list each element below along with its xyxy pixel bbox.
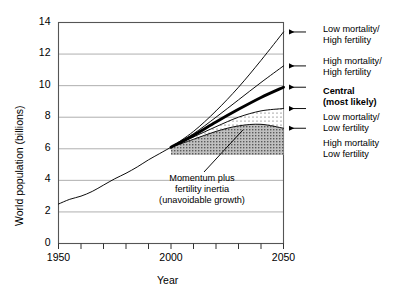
legend-entry-line: (most likely) [323, 97, 377, 108]
annotation-line: fertility inertia [143, 184, 261, 195]
x-tick-label: 2000 [149, 252, 193, 264]
legend-entry-high-mort-high-fert: High mortality/High fertility [323, 56, 382, 78]
legend-entry-low-mort-high-fert: Low mortality/High fertility [323, 24, 380, 46]
legend-entry-low-mort-low-fert: Low mortality/Low fertility [323, 112, 380, 134]
y-tick-label: 6 [29, 142, 51, 154]
legend-entry-line: Low mortality/ [323, 24, 380, 35]
y-tick-label: 4 [29, 173, 51, 185]
legend-entry-line: High fertility [323, 35, 380, 46]
legend-entry-line: Low fertility [323, 149, 379, 160]
y-tick-label: 12 [29, 47, 51, 59]
y-tick-label: 0 [29, 237, 51, 249]
legend-entry-line: Low fertility [323, 123, 380, 134]
x-tick-label: 2050 [262, 252, 306, 264]
legend-entry-line: High mortality/ [323, 56, 382, 67]
legend-entry-line: Low mortality/ [323, 112, 380, 123]
legend-entry-central: Central(most likely) [323, 86, 377, 108]
y-axis-title: World population (billions) [14, 105, 26, 226]
legend-entry-line: High mortality [323, 138, 379, 149]
legend-entry-high-mort-low-fert: High mortalityLow fertility [323, 138, 379, 160]
annotation-line: Momentum plus [143, 173, 261, 184]
legend-entry-line: High fertility [323, 67, 382, 78]
y-tick-label: 2 [29, 205, 51, 217]
y-tick-label: 10 [29, 79, 51, 91]
x-axis-title: Year [157, 275, 178, 287]
y-tick-label: 8 [29, 110, 51, 122]
legend-leader-lines [289, 32, 306, 128]
y-tick-label: 14 [29, 16, 51, 28]
chart-figure: World population (billions) Year 0246810… [0, 0, 405, 297]
x-tick-label: 1950 [37, 252, 81, 264]
momentum-annotation: Momentum plusfertility inertia(unavoidab… [143, 173, 261, 206]
annotation-line: (unavoidable growth) [143, 195, 261, 206]
legend-entry-line: Central [323, 86, 377, 97]
x-axis-ticks [59, 244, 284, 250]
